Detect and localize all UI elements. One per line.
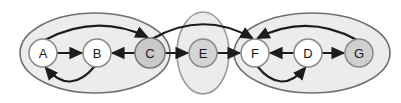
node-C-label: C xyxy=(145,46,154,61)
node-A-label: A xyxy=(39,46,48,61)
node-E-label: E xyxy=(199,46,208,61)
node-F-label: F xyxy=(251,46,259,61)
graph-svg: ABCEFDG xyxy=(0,0,401,103)
node-D-label: D xyxy=(303,46,312,61)
diagram-canvas: ABCEFDG xyxy=(0,0,401,103)
node-B-label: B xyxy=(93,46,102,61)
node-G-label: G xyxy=(354,46,364,61)
